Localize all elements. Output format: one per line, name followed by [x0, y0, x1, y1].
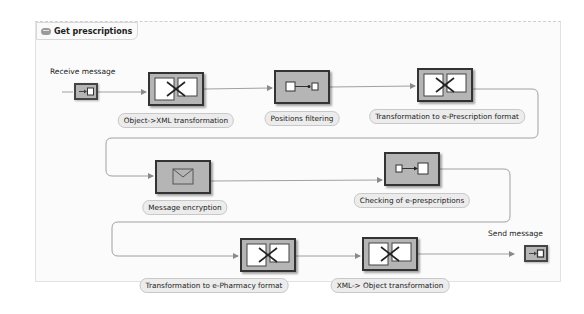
step-message-encryption[interactable]: [155, 160, 211, 194]
step-label-xml-object: XML-> Object transformation: [331, 278, 450, 293]
step-label-checking: Checking of e-prespcriptions: [354, 193, 470, 208]
step-label-e-prescription: Transformation to e-Prescription format: [369, 109, 525, 124]
step-object-xml-transformation[interactable]: [148, 72, 204, 106]
end-event-label: Send message: [488, 229, 543, 238]
step-xml-object-transformation[interactable]: [362, 237, 418, 271]
start-event-label: Receive message: [50, 67, 115, 76]
transformation-icon: [419, 70, 471, 100]
check-flow-icon: [386, 154, 438, 184]
start-event-receive-message[interactable]: [74, 83, 98, 100]
transformation-icon: [150, 74, 202, 104]
send-message-icon: [526, 247, 546, 260]
step-transformation-e-pharmacy[interactable]: [240, 238, 296, 272]
transformation-icon: [364, 239, 416, 269]
transformation-icon: [242, 240, 294, 270]
step-label-positions-filtering: Positions filtering: [265, 111, 340, 126]
filter-icon: [276, 72, 328, 102]
end-event-send-message[interactable]: [524, 245, 548, 262]
receive-message-icon: [76, 85, 96, 98]
step-label-e-pharmacy: Transformation to e-Pharmacy format: [140, 278, 289, 293]
step-label-message-encryption: Message encryption: [142, 200, 227, 215]
envelope-icon: [157, 162, 209, 192]
step-positions-filtering[interactable]: [274, 70, 330, 104]
step-checking-e-prescriptions[interactable]: [384, 152, 440, 186]
step-label-object-xml: Object->XML transformation: [118, 113, 234, 128]
step-transformation-e-prescription[interactable]: [417, 68, 473, 102]
